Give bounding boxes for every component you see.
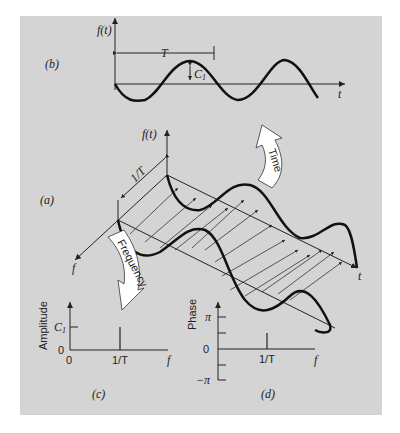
fourier-diagram: f(t) (b) T C1 t Time (a) f(t) f 1/T t: [0, 0, 400, 433]
t-label-a: t: [358, 269, 362, 283]
phase-1T-label: 1/T: [259, 353, 275, 365]
zero-tick: 0: [203, 343, 209, 355]
pi-tick: π: [205, 310, 212, 324]
c1-tick-label: C1: [54, 320, 66, 335]
f-label-d: f: [314, 353, 319, 367]
panel-b-label: (b): [45, 57, 59, 71]
amplitude-axis-label: Amplitude: [37, 301, 49, 350]
phase-axis-label: Phase: [186, 299, 198, 330]
spacing-label: 1/T: [127, 163, 149, 185]
f-label-c: f: [167, 353, 172, 367]
amp-1T-label: 1/T: [112, 354, 128, 366]
panel-d-label: (d): [261, 387, 275, 401]
amp-origin-y: 0: [58, 344, 64, 356]
panel-a-label: (a): [40, 193, 54, 207]
panel-c: Amplitude C1 0 0 1/T f (c): [37, 301, 172, 401]
t-label-b: t: [338, 87, 342, 101]
time-arrow: Time: [256, 125, 285, 188]
amp-origin-x: 0: [66, 354, 72, 366]
panel-a: (a) f(t) f 1/T t: [40, 127, 362, 332]
neg-pi-tick: −π: [196, 373, 211, 387]
f-label-a: f: [72, 261, 77, 275]
panel-c-label: (c): [92, 387, 105, 401]
frequency-arrow: Frequency: [108, 230, 150, 310]
panel-b: f(t) (b) T C1 t: [45, 18, 345, 101]
panel-d: Phase π 0 −π 1/T f (d): [186, 299, 319, 401]
sinusoid-b: [115, 60, 318, 101]
time-axis-a: [167, 175, 357, 268]
f-of-t-label-a: f(t): [142, 127, 157, 141]
f-of-t-label: f(t): [97, 23, 112, 37]
